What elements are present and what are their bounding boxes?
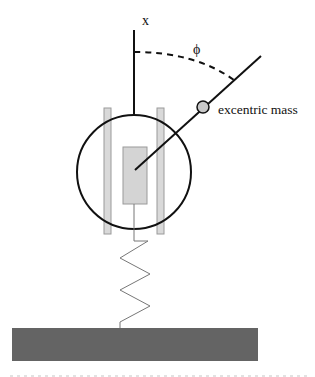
angle-label: ϕ [193,42,200,57]
mass-label: excentric mass [218,102,298,117]
left-guide-rail [104,108,111,234]
spring [120,204,150,328]
diagram-canvas: x ϕ excentric mass [0,0,315,377]
ground-base [12,328,258,361]
x-axis-label: x [142,13,149,28]
excentric-mass [197,101,209,113]
right-guide-rail [157,108,164,234]
angle-arc [134,52,234,80]
inner-block [123,147,147,204]
